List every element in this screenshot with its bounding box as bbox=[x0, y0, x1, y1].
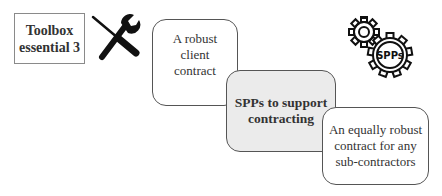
card-subcontractor-contract: An equally robust contract for any sub-c… bbox=[322, 107, 429, 185]
card-text-line: An equally robust bbox=[329, 122, 422, 138]
card-text-line: A robust bbox=[173, 31, 217, 47]
card-spps-support: SPPs to support contracting bbox=[226, 70, 336, 152]
card-text-line: SPPs to support bbox=[235, 95, 327, 111]
card-text-line: contract for any bbox=[334, 138, 416, 154]
toolbox-line-2: essential 3 bbox=[19, 39, 80, 56]
gears-icon: SPPs bbox=[340, 10, 430, 82]
gears-label: SPPs bbox=[376, 50, 404, 61]
card-text-line: contracting bbox=[248, 111, 314, 127]
card-text-line: client bbox=[181, 47, 210, 63]
card-text-line: sub-contractors bbox=[335, 154, 415, 170]
tools-icon bbox=[90, 11, 142, 63]
toolbox-line-1: Toolbox bbox=[26, 22, 74, 39]
toolbox-essential-label: Toolbox essential 3 bbox=[14, 13, 85, 64]
card-text-line: contract bbox=[174, 63, 216, 79]
